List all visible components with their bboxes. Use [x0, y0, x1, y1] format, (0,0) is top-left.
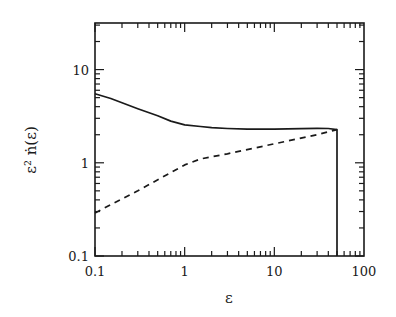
series-dashed — [95, 130, 337, 213]
y-tick-label: 10 — [72, 63, 89, 78]
tick-labels: 0.11101000.1110 — [68, 63, 376, 279]
series-solid — [95, 94, 337, 256]
chart: 0.11101000.1110 ε ε² ṅ(ε) — [0, 0, 396, 317]
y-tick-label: 0.1 — [68, 249, 89, 264]
y-axis-label: ε² ṅ(ε) — [22, 126, 40, 174]
x-tick-label: 10 — [266, 264, 283, 279]
x-tick-label: 1 — [181, 264, 189, 279]
y-tick-label: 1 — [81, 156, 89, 171]
x-tick-label: 0.1 — [85, 264, 106, 279]
plot-lines — [95, 94, 337, 256]
axis-ticks — [95, 23, 364, 256]
plot-frame — [95, 23, 364, 256]
x-axis-label: ε — [225, 289, 233, 307]
x-tick-label: 100 — [352, 264, 377, 279]
